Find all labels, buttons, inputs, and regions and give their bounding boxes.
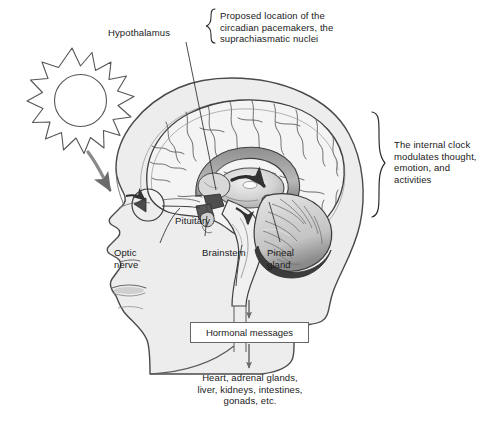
label-pituitary: Pituitary [175, 215, 210, 227]
curly-brace-icon [372, 112, 385, 217]
label-internal-clock-note: The internal clock modulates thought, em… [394, 139, 486, 185]
label-pineal-gland: Pineal gland [267, 247, 294, 270]
hormonal-messages-box: Hormonal messages [190, 322, 309, 343]
sun-icon [27, 48, 134, 154]
label-hormonal-messages: Hormonal messages [206, 327, 293, 338]
label-hypothalamus: Hypothalamus [58, 27, 170, 39]
figure-canvas: Hypothalamus Proposed location of the ci… [0, 0, 487, 427]
label-brainstem: Brainstem [202, 247, 246, 259]
label-target-organs: Heart, adrenal glands, liver, kidneys, i… [160, 372, 340, 407]
anatomical-illustration [0, 0, 487, 427]
label-optic-nerve: Optic nerve [114, 247, 138, 270]
label-hypothalamus-note: Proposed location of the circadian pacem… [220, 10, 380, 45]
curved-arrow-icon [88, 152, 110, 190]
curly-brace-icon [206, 9, 215, 43]
